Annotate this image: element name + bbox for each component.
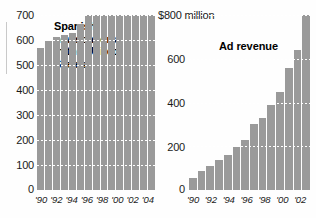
plot-area-right [189, 15, 310, 190]
x-axis-label: '92 [205, 194, 223, 205]
x-axis-label: '00 [276, 194, 294, 205]
x-axis-labels-left: '90 '92 '94 '96 '98 '00 '02 '04 [35, 194, 157, 205]
x-axis-label: '98 [258, 194, 276, 205]
x-axis-label: '00 [111, 194, 126, 205]
x-axis-label: '94 [223, 194, 241, 205]
x-axis-label: '96 [241, 194, 259, 205]
bar [85, 15, 92, 190]
bar [294, 50, 302, 190]
bar-series-left [37, 15, 155, 190]
y-axis-label-500: 500 [0, 60, 34, 71]
bar [108, 15, 115, 190]
y-axis-label-200: 200 [158, 142, 185, 153]
bar-series-right [189, 15, 310, 190]
bar [101, 15, 108, 190]
bar [206, 166, 214, 190]
x-axis-label: '92 [50, 194, 65, 205]
y-axis-label-700: 700 [0, 10, 34, 21]
chart-panel-ad-revenue: Ad revenue $800 million 600 400 200 0 [158, 0, 316, 218]
x-axis-label: '90 [35, 194, 50, 205]
x-axis-label: '02 [294, 194, 312, 205]
bar [77, 24, 84, 190]
bar [224, 155, 232, 190]
y-axis-label-600: 600 [158, 54, 185, 65]
bar [285, 68, 293, 191]
bar [69, 33, 76, 191]
x-axis-labels-right: '90 '92 '94 '96 '98 '00 '02 [187, 194, 312, 205]
bar [53, 37, 60, 190]
plot-area-left [37, 15, 155, 190]
y-axis-label-300: 300 [0, 110, 34, 121]
x-axis-label: '90 [187, 194, 205, 205]
y-axis-label-600: 600 [0, 35, 34, 46]
bar [189, 178, 197, 190]
y-axis-label-200: 200 [0, 135, 34, 146]
bar [37, 48, 44, 190]
y-axis-label-0: 0 [0, 184, 34, 195]
bar [116, 15, 123, 190]
y-axis-label-400: 400 [158, 98, 185, 109]
bar [215, 160, 223, 190]
bar [93, 15, 100, 190]
x-axis-label: '04 [142, 194, 157, 205]
x-axis-label: '94 [66, 194, 81, 205]
bar [233, 147, 241, 190]
bar [267, 105, 275, 190]
y-axis-label-400: 400 [0, 85, 34, 96]
bar [241, 140, 249, 190]
bar [132, 15, 139, 190]
bar [276, 92, 284, 190]
y-axis-label-100: 100 [0, 160, 34, 171]
x-axis-label: '02 [127, 194, 142, 205]
bar [148, 15, 155, 190]
bar [198, 171, 206, 190]
bar [259, 118, 267, 190]
x-axis-label: '96 [81, 194, 96, 205]
bar [124, 15, 131, 190]
bar [61, 35, 68, 190]
dual-bar-chart-figure: Spanish newspapers in the United States … [0, 0, 316, 218]
x-axis-label: '98 [96, 194, 111, 205]
chart-panel-spanish-newspapers: Spanish newspapers in the United States … [0, 0, 158, 218]
y-axis-label-0: 0 [158, 184, 185, 195]
bar [45, 41, 52, 190]
bar [250, 124, 258, 190]
bar [140, 15, 147, 190]
bar [302, 15, 310, 190]
